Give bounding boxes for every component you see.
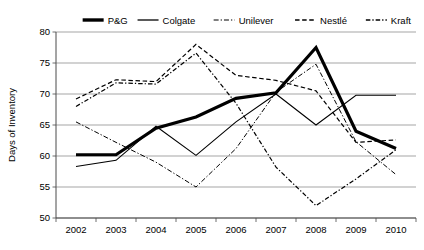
x-axis-tick-labels: 200220032004200520062007200820092010 <box>65 224 406 235</box>
legend-label-unilever: Unilever <box>239 15 274 26</box>
y-tick-label: 80 <box>39 26 50 37</box>
x-tick-label: 2003 <box>105 224 126 235</box>
x-tick-label: 2006 <box>225 224 246 235</box>
y-tick-label: 55 <box>39 181 50 192</box>
x-tick-label: 2002 <box>65 224 86 235</box>
x-tick-label: 2005 <box>185 224 206 235</box>
y-tick-label: 75 <box>39 57 50 68</box>
x-tick-label: 2007 <box>265 224 286 235</box>
x-tick-label: 2009 <box>345 224 366 235</box>
x-tick-label: 2004 <box>145 224 166 235</box>
legend-label-colgate: Colgate <box>163 15 196 26</box>
y-tick-label: 70 <box>39 88 50 99</box>
legend-label-kraft: Kraft <box>391 15 411 26</box>
x-tick-label: 2010 <box>385 224 406 235</box>
y-axis-title: Days of Inventory <box>6 88 17 162</box>
chart-container: P&GColgateUnileverNestléKraft 5055606570… <box>0 0 424 250</box>
legend-label-p-g: P&G <box>108 15 128 26</box>
y-tick-label: 60 <box>39 150 50 161</box>
x-tick-label: 2008 <box>305 224 326 235</box>
y-tick-label: 65 <box>39 119 50 130</box>
legend-label-nestl-: Nestlé <box>320 15 347 26</box>
y-tick-label: 50 <box>39 212 50 223</box>
inventory-days-line-chart: P&GColgateUnileverNestléKraft 5055606570… <box>0 0 424 250</box>
